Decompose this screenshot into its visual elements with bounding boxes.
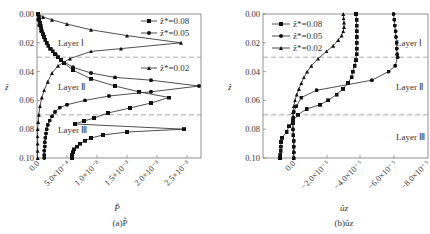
figure: 0.00 0.02 0.04 0.06 0.08 0.10 ẑ 0.0 5.0×… <box>0 0 430 234</box>
square-marker-icon <box>279 22 283 26</box>
panel-b-caption: (b)ûz <box>335 218 354 228</box>
panel-a-layer-1-label: Layer Ⅰ <box>58 38 84 48</box>
panel-b-x-tick: −4.0×10⁻⁵ <box>331 158 364 191</box>
panel-a-x-tick: 5.0×10⁻⁴ <box>42 158 72 188</box>
panel-a-x-tick: 2.0×10⁻³ <box>132 158 162 188</box>
square-marker-icon <box>147 19 151 23</box>
panel-a-layer-3-label: Layer Ⅲ <box>58 125 87 135</box>
panel-b-legend-label: ẑ*=0.08 <box>293 19 323 29</box>
panel-b-legend-label: ẑ*=0.05 <box>293 31 323 41</box>
panel-b-y-axis <box>263 14 266 158</box>
circle-marker-icon <box>279 34 283 38</box>
circle-marker-icon <box>147 31 151 35</box>
panel-b-y-tick: 0.02 <box>245 38 260 48</box>
panel-a-y-tick: 0.00 <box>19 9 34 19</box>
panel-a-chart: 0.00 0.02 0.04 0.06 0.08 0.10 ẑ 0.0 5.0×… <box>4 9 201 228</box>
panel-b-x-axis <box>293 155 394 158</box>
panel-a-y-tick: 0.06 <box>19 95 34 105</box>
panel-a-y-tick: 0.02 <box>19 38 34 48</box>
panel-b-chart: 0.00 0.02 0.04 0.06 0.08 0.10 ẑ 0.0 −2.0… <box>227 9 430 228</box>
panel-a-y-tick: 0.08 <box>19 124 34 134</box>
panel-b-y-tick: 0.06 <box>245 95 260 105</box>
panel-b-y-tick: 0.04 <box>245 67 261 77</box>
panel-a-caption: (a)P̂ <box>113 217 128 228</box>
panel-a-legend-label: ẑ*=0.02 <box>160 63 189 73</box>
panel-a-x-tick: 2.5×10⁻³ <box>162 158 192 188</box>
panel-a-legend-label: ẑ*=0.08 <box>160 16 190 26</box>
panel-b-x-tick: 0.0 <box>283 158 298 173</box>
panel-a-layer-2-label: Layer Ⅱ <box>58 82 85 92</box>
panel-b-layer-3-label: Layer Ⅲ <box>396 132 425 142</box>
panel-a-y-label: ẑ <box>4 82 9 92</box>
panel-b-y-label: ẑ <box>227 82 232 92</box>
panel-a-x-tick: 1.0×10⁻³ <box>72 158 102 188</box>
panel-b-layer-2-label: Layer Ⅱ <box>396 82 423 92</box>
panel-a-y-tick: 0.04 <box>19 67 35 77</box>
panel-a-x-tick: 1.5×10⁻³ <box>102 158 132 188</box>
panel-a-legend-label: ẑ*=0.05 <box>160 28 190 38</box>
panel-b-layer-1-label: Layer Ⅰ <box>396 38 422 48</box>
panel-a-x-label: P̂ <box>113 203 120 213</box>
panel-b-x-tick: −2.0×10⁻⁵ <box>298 158 331 191</box>
panel-b-y-tick: 0.10 <box>245 153 260 163</box>
panel-b-x-tick: −8.0×10⁻⁵ <box>398 158 430 191</box>
panel-b-legend-label: ẑ*=0.02 <box>293 43 322 53</box>
panel-b-x-label: ûz <box>340 203 349 213</box>
panel-a-x-axis <box>67 155 187 158</box>
panel-b-y-tick: 0.00 <box>245 9 260 19</box>
panel-b-legend: ẑ*=0.08 ẑ*=0.05 ẑ*=0.02 <box>272 19 323 53</box>
panel-b-x-tick: −6.0×10⁻⁵ <box>365 158 398 191</box>
panel-b-y-tick: 0.08 <box>245 124 260 134</box>
